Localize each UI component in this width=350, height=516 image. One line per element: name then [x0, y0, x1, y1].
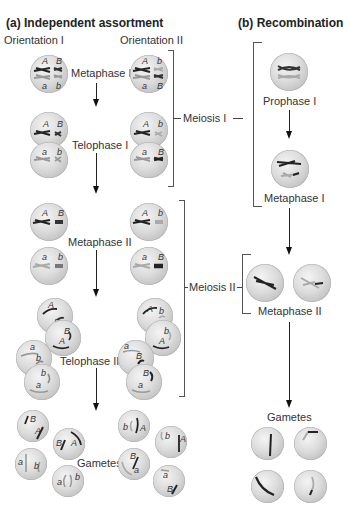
allele-label: b — [58, 253, 63, 262]
allele-label: B — [30, 415, 36, 424]
meiosis-2-bracket-a — [179, 200, 185, 397]
gamete-o2-1: b A — [118, 410, 150, 442]
panel-a-title: (a) Independent assortment — [6, 16, 163, 30]
arrowhead-2 — [93, 186, 99, 194]
meiosis-2-label: Meiosis II — [189, 281, 235, 294]
allele-label: B — [58, 209, 64, 218]
chromosome-pair-icon — [270, 53, 308, 91]
arrowhead-b-1 — [286, 131, 292, 139]
allele-label: a — [30, 343, 35, 352]
allele-label: a — [142, 253, 147, 262]
stage-label-prophase-1: Prophase I — [263, 95, 316, 108]
gamete-o1-3: a b — [15, 448, 47, 480]
allele-label: A — [48, 301, 54, 310]
gamete-b-1 — [251, 427, 284, 460]
gamete-o2-4: a B — [153, 465, 185, 497]
arrow-b-shaft-2 — [289, 208, 290, 248]
allele-label: b — [123, 423, 128, 432]
allele-label: A — [42, 57, 48, 66]
allele-label: a — [142, 82, 147, 91]
cell-o1-metaphase1: A B a b — [30, 55, 68, 93]
allele-label: a — [18, 458, 23, 467]
allele-label: a — [42, 148, 47, 157]
chromosome-icon — [246, 264, 284, 302]
cell-o1-metaphase2-top: A B — [30, 203, 68, 241]
cell-o2-metaphase2-bottom: a B — [130, 247, 168, 285]
allele-label: b — [36, 354, 41, 363]
cell-o1-metaphase2-bottom: a b — [30, 247, 68, 285]
allele-label: a — [163, 471, 168, 480]
allele-label: A — [42, 209, 48, 218]
gamete-o1-1: B A — [17, 410, 49, 442]
gamete-o2-3: B a — [118, 448, 150, 480]
allele-label: b — [57, 148, 62, 157]
meiosis-1-connector-right — [233, 118, 243, 119]
gamete-b-3 — [251, 470, 284, 503]
cell-o2-telophase1-bottom: a B — [130, 142, 168, 178]
cell-o2-metaphase2-top: A b — [130, 203, 168, 241]
orientation-1-header: Orientation I — [4, 34, 64, 47]
allele-label: B — [143, 369, 149, 378]
allele-label: B — [136, 352, 142, 361]
gamete-o2-2: b A — [155, 426, 187, 458]
arrowhead-b-3 — [286, 400, 292, 408]
allele-label: A — [142, 57, 148, 66]
gamete-b-4 — [294, 470, 327, 503]
gamete-b-2 — [294, 427, 327, 460]
chromosome-icon — [30, 142, 68, 178]
allele-label: B — [64, 327, 70, 336]
allele-label: b — [56, 82, 61, 91]
allele-label: B — [157, 82, 163, 91]
cell-o2-metaphase1: A b a B — [130, 55, 168, 93]
allele-label: b — [159, 307, 164, 316]
allele-label: B — [130, 452, 136, 461]
arrow-b-shaft-1 — [289, 110, 290, 132]
allele-label: B — [56, 439, 62, 448]
meiosis-2-connector-left — [184, 287, 188, 288]
allele-label: B — [158, 253, 164, 262]
allele-label: b — [165, 432, 170, 441]
cell-b-metaphase2-left — [246, 264, 284, 302]
allele-label: b — [157, 57, 162, 66]
allele-label: b — [158, 209, 163, 218]
chromosome-icon — [293, 264, 331, 302]
stage-label-metaphase-1-b: Metaphase I — [264, 192, 325, 205]
allele-label: A — [43, 120, 49, 129]
chromosome-pair-icon — [30, 55, 68, 93]
allele-label: b — [34, 462, 39, 471]
chromosome-icon — [251, 470, 284, 503]
allele-label: b — [164, 327, 169, 336]
allele-label: a — [138, 381, 143, 390]
allele-label: b — [41, 369, 46, 378]
allele-label: a — [42, 253, 47, 262]
allele-label: a — [134, 466, 139, 475]
allele-label: a — [57, 478, 62, 487]
gamete-o1-4: a b — [52, 465, 84, 497]
arrowhead-3 — [93, 289, 99, 297]
allele-label: a — [42, 82, 47, 91]
cell-o1-telophase1-bottom: a b — [30, 142, 68, 178]
arrowhead-b-2 — [286, 247, 292, 255]
stage-label-metaphase-1: Metaphase I — [71, 67, 132, 80]
arrow-shaft-4 — [96, 368, 97, 404]
allele-label: A — [140, 424, 146, 433]
meiosis-1-label: Meiosis I — [183, 112, 226, 125]
cell-o2-telophase2-2b: B a — [126, 364, 162, 400]
allele-label: A — [159, 337, 165, 346]
arrowhead-1 — [93, 99, 99, 107]
stage-label-telophase-1: Telophase I — [72, 139, 128, 152]
orientation-2-header: Orientation II — [120, 34, 183, 47]
allele-label: A — [147, 305, 153, 314]
meiosis-1-bracket-b — [253, 42, 262, 207]
stage-label-gametes-b: Gametes — [267, 411, 312, 424]
stage-label-telophase-2: Telophase II — [60, 355, 119, 368]
cell-b-metaphase1 — [271, 150, 309, 188]
allele-label: A — [180, 435, 186, 444]
allele-label: B — [57, 120, 63, 129]
meiosis-1-connector-left — [173, 118, 181, 119]
chromosome-icon — [294, 470, 327, 503]
arrowhead-4 — [93, 403, 99, 411]
allele-label: A — [59, 337, 65, 346]
allele-label: A — [143, 120, 149, 129]
chromosome-pair-icon — [271, 150, 309, 188]
